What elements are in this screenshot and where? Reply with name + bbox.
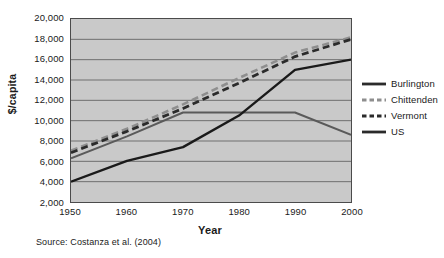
legend-item-label: Burlington (391, 79, 435, 89)
x-tick-label: 1970 (172, 207, 194, 217)
legend-item-vermont[interactable]: Vermont (362, 108, 444, 124)
chart-figure: $/capita 2,0004,0006,0008,00010,00012,00… (0, 0, 444, 258)
legend-swatch-icon (362, 79, 386, 89)
legend-item-label: Vermont (391, 111, 427, 121)
legend-item-burlington[interactable]: Burlington (362, 76, 444, 92)
x-tick-label: 1950 (59, 207, 81, 217)
legend-swatch-icon (362, 111, 386, 121)
x-axis-label: Year (150, 224, 270, 236)
x-tick-label: 1990 (285, 207, 307, 217)
legend-item-label: Chittenden (391, 95, 438, 105)
source-note: Source: Costanza et al. (2004) (36, 237, 161, 247)
chart-legend: BurlingtonChittendenVermontUS (362, 76, 444, 140)
x-tick-label: 1980 (228, 207, 250, 217)
legend-swatch-icon (362, 127, 386, 137)
legend-item-label: US (391, 127, 404, 137)
x-tick-label: 2000 (341, 207, 363, 217)
legend-item-us[interactable]: US (362, 124, 444, 140)
legend-swatch-icon (362, 95, 386, 105)
legend-item-chittenden[interactable]: Chittenden (362, 92, 444, 108)
x-tick-label: 1960 (116, 207, 138, 217)
